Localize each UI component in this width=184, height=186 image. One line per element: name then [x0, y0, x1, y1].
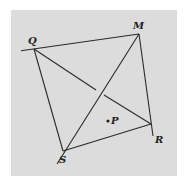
- line-MS: [57, 34, 139, 164]
- line-SQ: [34, 49, 63, 151]
- label-Q: Q: [28, 35, 37, 46]
- label-M: M: [132, 20, 145, 31]
- line-RS: [63, 124, 151, 151]
- point-P-dot: [106, 119, 109, 122]
- label-S: S: [59, 154, 66, 165]
- line-QM: [21, 34, 139, 51]
- label-R: R: [154, 134, 163, 145]
- label-P: P: [110, 115, 119, 126]
- geometry-diagram: Q M R S P: [0, 0, 184, 186]
- line-QR-upper: [34, 49, 96, 90]
